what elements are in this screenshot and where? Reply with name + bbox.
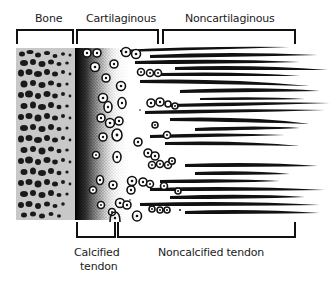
- bracket-noncartilaginous: [163, 30, 295, 44]
- bottom-brackets: [77, 222, 295, 237]
- bone-region: [16, 48, 76, 220]
- bracket-cartilaginous: [77, 30, 158, 44]
- top-brackets: [17, 30, 295, 44]
- diagram-graphic: [0, 0, 336, 281]
- bracket-calcified-tendon: [77, 222, 115, 237]
- bracket-bone: [17, 30, 73, 44]
- bracket-noncalcified-tendon: [118, 222, 295, 237]
